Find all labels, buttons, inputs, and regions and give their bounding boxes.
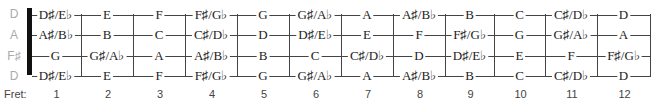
note: F bbox=[153, 8, 164, 22]
fret-line-1 bbox=[81, 14, 82, 77]
note: A♯/B♭ bbox=[36, 28, 74, 42]
fret-line-8 bbox=[445, 14, 446, 77]
open-string-1: D bbox=[6, 7, 22, 21]
fret-number: 6 bbox=[313, 88, 319, 100]
note: G bbox=[256, 8, 269, 22]
note: A bbox=[360, 69, 373, 83]
fret-line-12 bbox=[650, 14, 651, 77]
nut bbox=[27, 8, 32, 75]
note: C bbox=[513, 69, 526, 83]
note: C♯/D♭ bbox=[348, 49, 386, 63]
note: B bbox=[101, 28, 114, 42]
note: D bbox=[617, 8, 630, 22]
note: D♯/E♭ bbox=[451, 49, 488, 63]
fret-number: 11 bbox=[566, 88, 577, 100]
fret-line-2 bbox=[133, 14, 134, 77]
note: A bbox=[152, 49, 165, 63]
fret-label-heading: Fret: bbox=[4, 88, 27, 100]
note: C bbox=[153, 28, 166, 42]
open-string-2: A bbox=[6, 28, 22, 42]
note: G bbox=[513, 28, 526, 42]
fret-number: 2 bbox=[105, 88, 111, 100]
fret-number: 8 bbox=[417, 88, 423, 100]
note: E bbox=[514, 49, 526, 63]
fret-number: 7 bbox=[365, 88, 371, 100]
fret-number: 5 bbox=[261, 88, 267, 100]
note: D♯/E♭ bbox=[37, 69, 74, 83]
fret-number: 4 bbox=[209, 88, 215, 100]
note: B bbox=[463, 69, 476, 83]
note: D bbox=[412, 49, 425, 63]
fret-line-11 bbox=[597, 14, 598, 77]
note: F♯/G♭ bbox=[193, 69, 230, 83]
note: G♯/A♭ bbox=[296, 8, 335, 22]
note: A♯/B♭ bbox=[192, 49, 230, 63]
fret-line-6 bbox=[341, 14, 342, 77]
note: A♯/B♭ bbox=[400, 69, 438, 83]
note: D bbox=[617, 69, 630, 83]
fret-number: 3 bbox=[157, 88, 163, 100]
fret-line-9 bbox=[494, 14, 495, 77]
note: E bbox=[101, 69, 113, 83]
note: F♯/G♭ bbox=[193, 8, 230, 22]
note: F bbox=[413, 28, 424, 42]
note: C bbox=[513, 8, 526, 22]
note: C♯/D♭ bbox=[192, 28, 230, 42]
note: G♯/A♭ bbox=[88, 49, 127, 63]
note: C bbox=[309, 49, 322, 63]
note: E bbox=[101, 8, 113, 22]
fret-line-4 bbox=[237, 14, 238, 77]
note: F bbox=[153, 69, 164, 83]
fret-line-5 bbox=[289, 14, 290, 77]
fret-number: 12 bbox=[618, 88, 630, 100]
note: B bbox=[257, 49, 270, 63]
note: G♯/A♭ bbox=[296, 69, 335, 83]
note: G bbox=[256, 69, 269, 83]
note: G bbox=[49, 49, 62, 63]
note: A bbox=[360, 8, 373, 22]
note: A bbox=[617, 28, 630, 42]
note: D♯/E♭ bbox=[296, 28, 333, 42]
fret-number: 10 bbox=[514, 88, 526, 100]
note: D♯/E♭ bbox=[37, 8, 74, 22]
note: E bbox=[361, 28, 373, 42]
note: F bbox=[565, 49, 576, 63]
fret-number: 9 bbox=[467, 88, 473, 100]
note: C♯/D♭ bbox=[552, 69, 590, 83]
open-string-4: D bbox=[6, 69, 22, 83]
note: A♯/B♭ bbox=[400, 8, 438, 22]
note: G♯/A♭ bbox=[552, 28, 591, 42]
fret-line-10 bbox=[545, 14, 546, 77]
fret-line-3 bbox=[185, 14, 186, 77]
note: C♯/D♭ bbox=[552, 8, 590, 22]
note: F♯/G♭ bbox=[605, 49, 642, 63]
open-string-3: F♯ bbox=[6, 49, 22, 63]
fret-number: 1 bbox=[53, 88, 59, 100]
note: B bbox=[463, 8, 476, 22]
note: F♯/G♭ bbox=[451, 28, 488, 42]
note: D bbox=[256, 28, 269, 42]
fret-line-7 bbox=[393, 14, 394, 77]
fretboard-diagram: D A F♯ D D♯/E♭A♯/B♭GD♯/E♭EBG♯/A♭EFCAFF♯/… bbox=[0, 0, 661, 109]
